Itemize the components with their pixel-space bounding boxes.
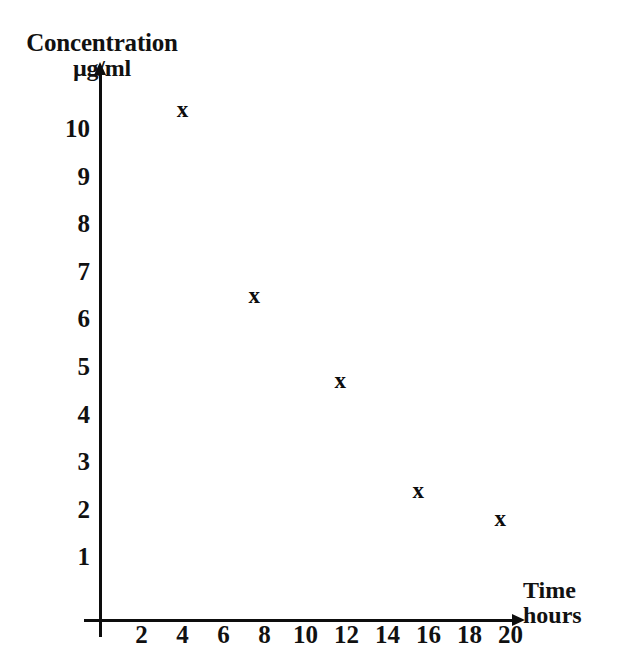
y-tick-label: 7 [44, 258, 90, 283]
x-tick-label: 20 [489, 622, 533, 647]
y-tick-label: 10 [44, 116, 90, 141]
x-tick-label: 2 [120, 622, 164, 647]
x-tick-label: 18 [448, 622, 492, 647]
data-point-marker: x [495, 507, 507, 530]
y-axis-line [99, 72, 102, 637]
y-axis-arrow-icon [94, 62, 106, 75]
chart-page: Concentration µg/ml Time hours 246810121… [0, 0, 642, 664]
x-tick-label: 14 [366, 622, 410, 647]
y-tick-label: 2 [44, 496, 90, 521]
x-tick-label: 4 [161, 622, 205, 647]
x-tick-label: 10 [284, 622, 328, 647]
y-tick-label: 3 [44, 449, 90, 474]
x-tick-label: 12 [325, 622, 369, 647]
data-point-marker: x [249, 283, 261, 306]
y-tick-label: 8 [44, 211, 90, 236]
y-tick-label: 6 [44, 306, 90, 331]
data-point-marker: x [413, 478, 425, 501]
y-tick-label: 4 [44, 401, 90, 426]
x-tick-label: 8 [243, 622, 287, 647]
y-tick-label: 1 [44, 544, 90, 569]
x-tick-label: 6 [202, 622, 246, 647]
data-point-marker: x [335, 369, 347, 392]
y-tick-label: 9 [44, 163, 90, 188]
x-tick-label: 16 [407, 622, 451, 647]
data-point-marker: x [177, 97, 189, 120]
y-tick-label: 5 [44, 354, 90, 379]
scatter-plot: 246810121416182012345678910xxxxx [0, 0, 642, 664]
